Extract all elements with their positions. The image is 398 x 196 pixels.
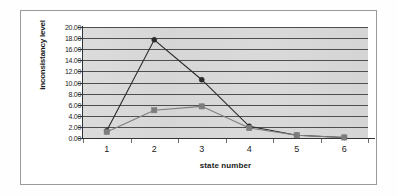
data-point-marker: [199, 77, 204, 82]
x-tick-label: 6: [334, 144, 354, 154]
series-series-1: [104, 37, 347, 140]
y-tick-label: 8.00: [52, 91, 81, 98]
y-tick-label: 4.00: [52, 113, 81, 120]
y-axis-tick: [78, 27, 82, 28]
series-layer: [83, 27, 368, 139]
y-tick-label: 16.00: [52, 46, 81, 53]
series-series-2: [104, 104, 347, 140]
y-axis-tick: [78, 116, 82, 117]
y-axis-tick: [78, 71, 82, 72]
x-tick-label: 4: [239, 144, 259, 154]
chart-figure: inconsistancy level 20.0018.0016.0014.00…: [0, 0, 398, 196]
data-point-marker: [199, 104, 204, 109]
y-tick-label: 14.00: [52, 57, 81, 64]
y-tick-label: 6.00: [52, 102, 81, 109]
x-axis-tick: [178, 139, 179, 143]
x-tick-label: 3: [192, 144, 212, 154]
y-axis-tick: [78, 138, 82, 139]
data-point-marker: [152, 37, 157, 42]
data-point-marker: [247, 125, 252, 130]
y-axis-tick: [78, 38, 82, 39]
x-tick-label: 5: [287, 144, 307, 154]
y-axis-tick: [78, 83, 82, 84]
y-tick-label: 2.00: [52, 124, 81, 131]
x-axis-tick: [273, 139, 274, 143]
series-line: [107, 106, 345, 137]
x-axis-tick: [321, 139, 322, 143]
y-tick-label: 20.00: [52, 24, 81, 31]
y-tick-label: 12.00: [52, 68, 81, 75]
y-tick-label: 18.00: [52, 35, 81, 42]
y-axis-tick: [78, 94, 82, 95]
x-axis-tick: [368, 139, 369, 143]
data-point-marker: [104, 129, 109, 134]
y-axis-title: inconsistancy level: [37, 7, 49, 103]
y-axis-tick: [78, 49, 82, 50]
y-tick-label: 0.00: [52, 135, 81, 142]
y-axis-tick-labels: 20.0018.0016.0014.0012.0010.008.006.004.…: [52, 24, 81, 134]
y-axis-tick: [78, 60, 82, 61]
x-axis-tick: [131, 139, 132, 143]
x-tick-label: 2: [144, 144, 164, 154]
series-line: [107, 40, 345, 138]
x-axis-tick: [83, 139, 84, 143]
x-axis-tick: [226, 139, 227, 143]
data-point-marker: [152, 108, 157, 113]
y-axis-tick: [78, 105, 82, 106]
data-point-marker: [294, 133, 299, 138]
figure-frame: inconsistancy level 20.0018.0016.0014.00…: [20, 10, 377, 185]
x-axis-title: state number: [83, 161, 368, 170]
x-tick-label: 1: [97, 144, 117, 154]
y-axis-tick: [78, 127, 82, 128]
y-tick-label: 10.00: [52, 80, 81, 87]
data-point-marker: [342, 135, 347, 140]
